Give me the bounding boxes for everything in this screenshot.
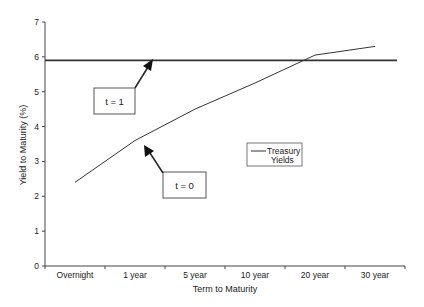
y-tick-label: 0 (34, 261, 39, 271)
x-category-label: 30 year (361, 270, 390, 280)
x-category-label: 5 year (183, 270, 207, 280)
y-tick-label: 7 (34, 17, 39, 27)
callout-t0: t = 0 (144, 145, 206, 198)
yield-curve-chart: 01234567 Overnight1 year5 year10 year20 … (0, 0, 424, 307)
x-category-label: 20 year (301, 270, 330, 280)
y-tick-label: 3 (34, 156, 39, 166)
callout-t0-label: t = 0 (175, 180, 194, 191)
y-tick-label: 2 (34, 191, 39, 201)
callout-t1: t = 1 (94, 59, 153, 114)
x-axis: Overnight1 year5 year10 year20 year30 ye… (45, 266, 405, 280)
y-tick-label: 1 (34, 226, 39, 236)
y-tick-label: 5 (34, 87, 39, 97)
y-tick-label: 6 (34, 52, 39, 62)
x-category-label: 10 year (241, 270, 270, 280)
arrow-up-left-icon (144, 145, 154, 157)
y-axis: 01234567 (34, 17, 45, 271)
callout-t1-label: t = 1 (105, 96, 124, 107)
legend-label-line2: Yields (271, 155, 294, 165)
x-category-label: Overnight (57, 270, 94, 280)
x-axis-title: Term to Maturity (193, 284, 258, 294)
x-category-label: 1 year (123, 270, 147, 280)
legend: Treasury Yields (247, 143, 302, 166)
y-tick-label: 4 (34, 122, 39, 132)
y-axis-title: Yield to Maturity (%) (18, 105, 28, 186)
